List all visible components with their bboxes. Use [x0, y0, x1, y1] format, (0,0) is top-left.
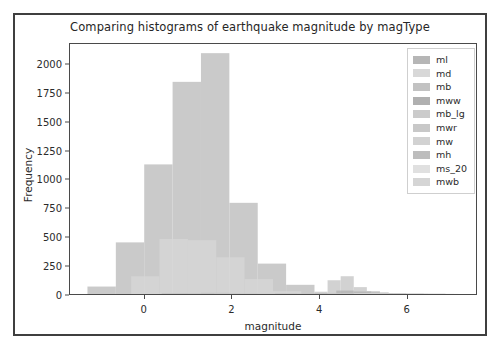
- legend-swatch-icon: [413, 151, 430, 159]
- x-tick-label: 2: [228, 304, 234, 315]
- y-tick-label: 1750: [37, 87, 62, 98]
- y-tick-label: 750: [43, 203, 62, 214]
- y-tick-label: 250: [43, 261, 62, 272]
- x-axis: magnitude 0246: [69, 295, 477, 335]
- legend-item-label: mww: [436, 96, 461, 106]
- y-axis-label: Frequency: [22, 90, 34, 260]
- y-axis: Frequency 025050075010001250150017502000: [15, 43, 69, 295]
- legend-swatch-icon: [413, 165, 430, 173]
- legend-item-label: mw: [436, 137, 453, 147]
- legend-item-ms_20[interactable]: ms_20: [413, 162, 467, 176]
- legend-swatch-icon: [413, 110, 430, 118]
- legend-item-mwr[interactable]: mwr: [413, 121, 467, 135]
- chart-title: Comparing histograms of earthquake magni…: [15, 20, 485, 34]
- x-axis-label: magnitude: [69, 320, 477, 332]
- x-tick-label: 6: [404, 304, 410, 315]
- x-tick-mark: [319, 295, 320, 299]
- legend-item-md[interactable]: md: [413, 67, 467, 81]
- y-tick-label: 2000: [37, 58, 62, 69]
- legend-item-ml[interactable]: ml: [413, 53, 467, 67]
- legend-item-label: md: [436, 69, 451, 79]
- legend-item-mb_lg[interactable]: mb_lg: [413, 107, 467, 121]
- y-tick-label: 500: [43, 232, 62, 243]
- legend-swatch-icon: [413, 69, 430, 77]
- legend-swatch-icon: [413, 178, 430, 186]
- legend-item-label: mwr: [436, 123, 457, 133]
- legend-swatch-icon: [413, 97, 430, 105]
- legend-item-label: mh: [436, 150, 451, 160]
- legend-item-label: ms_20: [436, 164, 467, 174]
- legend-item-mb[interactable]: mb: [413, 80, 467, 94]
- figure-canvas: Comparing histograms of earthquake magni…: [13, 13, 487, 336]
- x-tick-mark: [231, 295, 232, 299]
- y-tick-label: 1250: [37, 145, 62, 156]
- legend-swatch-icon: [413, 137, 430, 145]
- legend-item-mw[interactable]: mw: [413, 135, 467, 149]
- x-tick-label: 0: [140, 304, 146, 315]
- legend-item-label: ml: [436, 55, 448, 65]
- y-tick-label: 0: [56, 290, 62, 301]
- y-tick-label: 1500: [37, 116, 62, 127]
- legend-item-mh[interactable]: mh: [413, 148, 467, 162]
- x-tick-mark: [144, 295, 145, 299]
- legend-item-label: mb: [436, 82, 451, 92]
- legend-item-label: mwb: [436, 177, 459, 187]
- legend-swatch-icon: [413, 83, 430, 91]
- legend-item-mww[interactable]: mww: [413, 94, 467, 108]
- x-tick-mark: [407, 295, 408, 299]
- legend-swatch-icon: [413, 124, 430, 132]
- y-tick-label: 1000: [37, 174, 62, 185]
- legend-item-label: mb_lg: [436, 109, 465, 119]
- legend-swatch-icon: [413, 56, 430, 64]
- legend: mlmdmbmwwmb_lgmwrmwmhms_20mwb: [407, 48, 475, 194]
- legend-item-mwb[interactable]: mwb: [413, 175, 467, 189]
- x-tick-label: 4: [316, 304, 322, 315]
